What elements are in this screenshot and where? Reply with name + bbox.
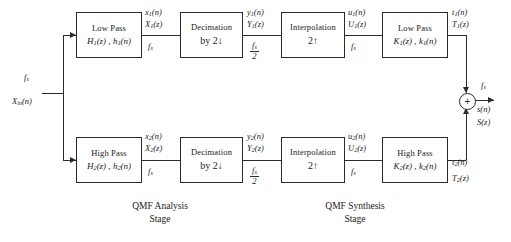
- label-rate-fs-after-interp-bottom: fs: [351, 166, 356, 178]
- caption-synthesis-line2: Stage: [344, 214, 365, 224]
- label-y1-time: y1(n): [247, 7, 264, 19]
- caption-synthesis-line1: QMF Synthesis: [325, 201, 384, 211]
- label-u1-z: U1(z): [348, 19, 366, 31]
- label-rate-fs-after-lowpass: fs: [148, 41, 153, 53]
- up-arrow-icon: ↑: [313, 35, 318, 46]
- block-decimator-bottom-title: Decimation: [191, 147, 232, 158]
- caption-analysis-line2: Stage: [149, 214, 170, 224]
- up-arrow-icon: ↑: [313, 160, 318, 171]
- block-interpolator-bottom-factor: 2↑: [308, 160, 318, 173]
- down-arrow-icon: ↓: [218, 35, 223, 46]
- caption-synthesis-stage: QMF Synthesis Stage: [300, 200, 410, 226]
- block-decimator-top-title: Decimation: [191, 22, 232, 33]
- label-t2-z: T2(z): [452, 173, 469, 185]
- block-analysis-highpass-transfer: H2(z) , h2(n): [87, 161, 131, 173]
- block-analysis-lowpass[interactable]: Low Pass H1(z) , h1(n): [76, 12, 142, 58]
- label-t1-z: T1(z): [452, 19, 469, 31]
- caption-analysis-stage: QMF Analysis Stage: [105, 200, 215, 226]
- block-synthesis-highpass[interactable]: High Pass K2(z) , k2(n): [382, 137, 448, 183]
- label-y2-z: Y2(z): [247, 143, 264, 155]
- block-decimator-top-factor: by 2↓: [200, 35, 223, 48]
- label-output-s-time: s(n): [477, 104, 490, 115]
- block-analysis-highpass[interactable]: High Pass H2(z) , h2(n): [76, 137, 142, 183]
- down-arrow-icon: ↓: [218, 160, 223, 171]
- label-x2-time: x2(n): [145, 131, 162, 143]
- label-u2-time: u2(n): [348, 131, 365, 143]
- block-analysis-lowpass-transfer: H1(z) , h1(n): [87, 36, 131, 48]
- label-output-s-z: S(z): [477, 117, 490, 128]
- block-decimator-top[interactable]: Decimation by 2↓: [180, 12, 243, 58]
- input-rate-label: fs: [24, 72, 29, 84]
- block-interpolator-top[interactable]: Interpolation 2↑: [281, 12, 345, 58]
- block-interpolator-bottom[interactable]: Interpolation 2↑: [281, 137, 345, 183]
- plus-icon: +: [465, 96, 471, 107]
- block-interpolator-top-title: Interpolation: [290, 22, 336, 33]
- block-analysis-highpass-title: High Pass: [91, 148, 127, 159]
- label-rate-fs-after-interp-top: fs: [351, 41, 356, 53]
- block-decimator-bottom-factor: by 2↓: [200, 160, 223, 173]
- block-interpolator-top-factor: 2↑: [308, 35, 318, 48]
- block-decimator-bottom[interactable]: Decimation by 2↓: [180, 137, 243, 183]
- label-u1-time: u1(n): [348, 7, 365, 19]
- label-rate-fs-half-bottom: fs 2: [250, 166, 259, 187]
- label-u2-z: U2(z): [348, 143, 366, 155]
- block-synthesis-highpass-transfer: K2(z) , k2(n): [393, 161, 436, 173]
- summing-junction[interactable]: +: [459, 93, 476, 110]
- block-synthesis-lowpass-transfer: K1(z) , k1(n): [393, 36, 436, 48]
- label-y1-z: Y1(z): [247, 19, 264, 31]
- caption-analysis-line1: QMF Analysis: [132, 201, 188, 211]
- qmf-filter-bank-diagram: fs Xin(n) Low Pass H1(z) , h1(n) High Pa…: [0, 0, 511, 242]
- label-t2-time: t2(n): [452, 157, 467, 169]
- label-y2-time: y2(n): [247, 131, 264, 143]
- block-interpolator-bottom-title: Interpolation: [290, 147, 336, 158]
- label-output-rate: fs: [481, 80, 486, 92]
- label-t1-time: t1(n): [452, 7, 467, 19]
- block-synthesis-lowpass[interactable]: Low Pass K1(z) , k1(n): [382, 12, 448, 58]
- label-x1-z: X1(z): [145, 19, 162, 31]
- label-rate-fs-half-top: fs 2: [250, 41, 259, 62]
- input-signal-label: Xin(n): [12, 96, 32, 108]
- block-synthesis-lowpass-title: Low Pass: [398, 23, 432, 34]
- block-synthesis-highpass-title: High Pass: [397, 148, 433, 159]
- label-rate-fs-after-highpass: fs: [148, 166, 153, 178]
- block-analysis-lowpass-title: Low Pass: [92, 23, 126, 34]
- label-x2-z: X2(z): [145, 143, 162, 155]
- label-x1-time: x1(n): [145, 7, 162, 19]
